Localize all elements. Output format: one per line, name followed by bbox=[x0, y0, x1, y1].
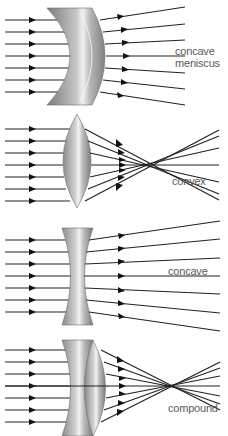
panel-concave-meniscus bbox=[5, 7, 185, 105]
label-line-1: concave bbox=[175, 45, 220, 57]
label-concave-meniscus: concave meniscus bbox=[175, 45, 220, 69]
outgoing-rays bbox=[85, 129, 219, 201]
convex-lens bbox=[63, 114, 91, 208]
label-compound: compound bbox=[168, 402, 218, 414]
incoming-rays bbox=[5, 237, 71, 315]
label-convex: convex bbox=[172, 175, 206, 187]
incoming-rays bbox=[5, 126, 70, 204]
label-concave: concave bbox=[168, 265, 208, 277]
panel-compound bbox=[5, 340, 220, 436]
panel-convex bbox=[5, 114, 219, 208]
label-line-2: meniscus bbox=[175, 57, 220, 69]
outgoing-rays bbox=[100, 7, 185, 105]
